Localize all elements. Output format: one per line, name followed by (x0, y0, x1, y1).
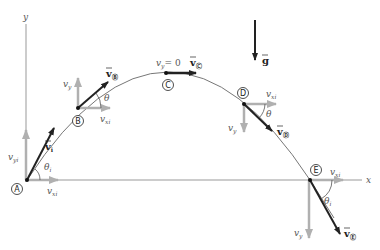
point-c-label: C (165, 81, 171, 90)
point-b-velocity-label: vⒷ (105, 68, 118, 81)
point-a-vy-label: vyi (8, 152, 18, 164)
point-e-angle-label: θi (324, 196, 331, 207)
projectile-motion-diagram: y x g A vi θi vxi vyi B vⒷ θ vxi (0, 0, 380, 250)
gravity-label: g (262, 55, 269, 66)
point-d-vy-label: vy (228, 123, 237, 135)
trajectory-curve (27, 72, 334, 218)
point-d-group: D vxi θ vy vⒹ (228, 88, 289, 140)
point-c-velocity-label: vⒸ (189, 57, 202, 70)
point-b-angle-arc (96, 93, 101, 108)
point-e-dot (308, 178, 312, 182)
point-e-label: E (313, 166, 318, 175)
point-d-dot (242, 102, 246, 106)
axes: y x (22, 12, 371, 185)
point-d-label: D (240, 89, 246, 98)
gravity-vector: g (255, 20, 269, 66)
point-b-label: B (75, 117, 81, 126)
point-e-velocity-vector (310, 180, 340, 234)
point-e-vx-label: vxi (330, 167, 340, 178)
point-d-vx-label: vxi (266, 89, 276, 100)
point-b-angle-label: θ (104, 93, 110, 103)
point-d-angle-arc (259, 104, 265, 118)
point-a-label: A (14, 185, 20, 194)
point-b-vx-label: vxi (100, 114, 110, 125)
point-c-dot (164, 71, 168, 75)
point-b-vy-label: vy (63, 79, 72, 91)
point-a-velocity-label: vi (44, 141, 54, 153)
point-b-group: B vⒷ θ vxi vy (63, 68, 118, 127)
point-a-group: A vi θi vxi vyi (8, 128, 58, 197)
point-a-angle-label: θi (44, 162, 51, 173)
point-d-angle-label: θ (266, 109, 272, 119)
point-e-velocity-label: vⒺ (343, 228, 356, 241)
point-a-vx-label: vxi (47, 186, 57, 197)
point-c-group: C vy= 0 vⒸ (156, 57, 202, 91)
point-a-angle-arc (35, 169, 40, 180)
point-c-vy-label: vy= 0 (156, 58, 181, 70)
y-axis-label: y (22, 12, 29, 22)
point-a-dot (25, 178, 29, 182)
point-e-vy-label: vy (294, 228, 303, 240)
x-axis-label: x (366, 175, 371, 185)
point-e-group: E vxi θi vy vⒺ (294, 165, 356, 242)
point-b-dot (76, 106, 80, 110)
